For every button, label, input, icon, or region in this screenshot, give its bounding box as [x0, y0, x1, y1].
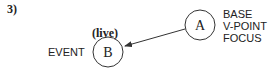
diagram-canvas: B A: [0, 0, 277, 73]
node-a-letter: A: [195, 18, 206, 33]
arrow-a-to-b: [125, 29, 185, 46]
node-a: A: [185, 10, 215, 40]
node-b-letter: B: [103, 45, 112, 60]
node-b: B: [93, 37, 123, 67]
